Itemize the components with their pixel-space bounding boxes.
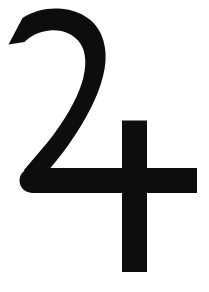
jupiter-symbol-svg: Jupiter astronomical symbol	[0, 0, 209, 292]
background-rect	[0, 0, 209, 292]
jupiter-symbol-canvas: Jupiter astronomical symbol	[0, 0, 209, 292]
horizontal-bar-stroke	[20, 168, 198, 193]
vertical-bar-stroke	[122, 121, 147, 273]
